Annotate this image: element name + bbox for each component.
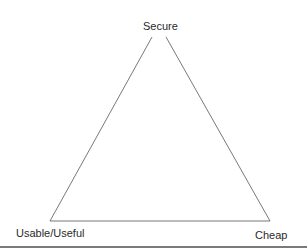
triangle-shape xyxy=(0,0,307,250)
security-triangle-diagram: Secure Usable/Useful Cheap xyxy=(0,0,307,250)
vertex-label-cheap: Cheap xyxy=(255,229,287,241)
vertex-label-usable-useful: Usable/Useful xyxy=(16,227,84,239)
bottom-divider xyxy=(0,246,307,248)
vertex-label-secure: Secure xyxy=(143,20,178,32)
